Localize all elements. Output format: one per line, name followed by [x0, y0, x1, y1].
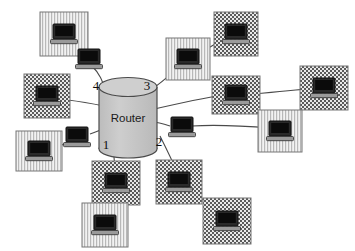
workstation-top-right[interactable]: [214, 12, 258, 56]
workstation-bottom-right[interactable]: [203, 198, 251, 244]
port-3-label: 3: [144, 78, 151, 93]
computer-icon: [26, 141, 53, 161]
router-label: Router: [111, 112, 146, 124]
computer-icon: [223, 85, 250, 105]
computer-icon: [64, 127, 91, 147]
computer-icon: [34, 86, 61, 106]
network-diagram: Router 1234: [0, 0, 355, 251]
workstation-upper-left-bare[interactable]: [76, 49, 103, 69]
port-2-label: 2: [156, 134, 163, 149]
computer-icon: [311, 78, 338, 98]
port-1-label: 1: [103, 137, 110, 152]
computer-icon: [267, 121, 294, 141]
port-4-label: 4: [93, 78, 100, 93]
computer-icon: [76, 49, 103, 69]
workstation-top-center[interactable]: [166, 38, 210, 80]
computer-icon: [175, 49, 202, 69]
computer-icon: [169, 117, 196, 137]
computer-icon: [51, 24, 78, 44]
computer-icon: [166, 172, 193, 192]
workstation-lower-left[interactable]: [16, 131, 62, 171]
workstation-bottom-mid-right[interactable]: [156, 160, 202, 204]
workstation-left-bare[interactable]: [64, 127, 91, 147]
workstation-bottom-center[interactable]: [92, 161, 140, 205]
workstation-mid-right[interactable]: [212, 76, 260, 114]
workstation-bottom-left-lower[interactable]: [82, 203, 128, 247]
computer-icon: [214, 211, 241, 231]
workstation-right-lower[interactable]: [258, 110, 302, 152]
workstation-center-bare[interactable]: [169, 117, 196, 137]
workstation-mid-left[interactable]: [24, 74, 70, 118]
computer-icon: [103, 173, 130, 193]
computer-icon: [92, 215, 119, 235]
workstation-far-right[interactable]: [300, 66, 348, 110]
workstation-nodes: [16, 12, 348, 247]
computer-icon: [223, 24, 250, 44]
diagram-canvas: Router 1234: [0, 0, 355, 251]
